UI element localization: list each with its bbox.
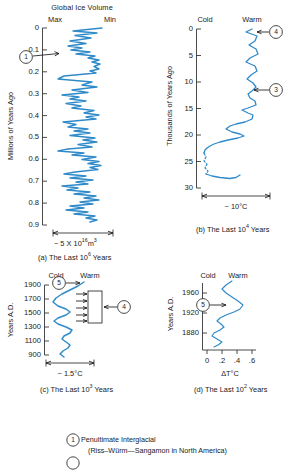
svg-text:(d) The Last 102 Years: (d) The Last 102 Years — [194, 383, 268, 394]
panel-c-scalebar-text: ~ 1.5°C — [58, 369, 84, 378]
svg-text:(c) The Last 103 Years: (c) The Last 103 Years — [40, 383, 113, 394]
callout-1-panel-a: 1 — [20, 51, 59, 64]
panel-d-xlabel: ΔT°C — [221, 369, 239, 378]
panel-c-ytick-labels: 1900 1700 1500 1300 1100 900 — [24, 280, 41, 359]
svg-text:0.3: 0.3 — [28, 89, 39, 98]
panel-b-scalebar-text: ~ 10°C — [225, 202, 249, 211]
svg-text:1920: 1920 — [182, 308, 199, 317]
panel-b: Cold Warm 0 5 10 15 20 25 30 Thousands o… — [160, 6, 293, 221]
panel-b-curve — [204, 29, 258, 153]
callout-3-panel-b: 3 — [254, 84, 282, 97]
svg-text:15: 15 — [185, 104, 193, 113]
svg-text:0.4: 0.4 — [28, 111, 39, 120]
svg-text:(a) The Last 106 Years: (a) The Last 106 Years — [38, 251, 112, 262]
callout-4-panel-b: 4 — [257, 26, 282, 39]
svg-text:1960: 1960 — [182, 288, 199, 297]
panel-b-scalebar: ~ 10°C — [202, 193, 270, 211]
svg-text:0: 0 — [189, 24, 193, 33]
panel-a-caption: (a) The Last 106 Years — [0, 250, 160, 266]
callout-4c-number: 4 — [122, 303, 126, 310]
panel-c-caption: (c) The Last 103 Years — [0, 382, 160, 398]
panel-a-curve — [58, 28, 102, 222]
svg-text:0: 0 — [35, 23, 39, 32]
panel-b-curve-lower — [206, 174, 240, 179]
panel-d-ytick-labels: 1960 1920 1880 — [182, 288, 199, 337]
panel-c-curve — [53, 282, 84, 357]
svg-text:1700: 1700 — [24, 294, 41, 303]
panel-d-cold-label: Cold — [200, 271, 215, 280]
legend-item-1: 1 Penultimate Interglacial (Riss–Würm—Sa… — [67, 434, 227, 455]
panel-c: Cold Warm 1900 1700 1500 1300 1100 900 Y… — [0, 268, 160, 384]
svg-text:(b) The Last 104 Years: (b) The Last 104 Years — [196, 223, 270, 234]
panel-a-scalebar: ~ 5 X 1016m3 — [53, 230, 113, 248]
panel-b-ytick-labels: 0 5 10 15 20 25 30 — [185, 24, 193, 192]
callout-4-box — [88, 291, 102, 323]
svg-text:900: 900 — [28, 350, 41, 359]
svg-text:1900: 1900 — [24, 280, 41, 289]
panel-c-warm-label: Warm — [80, 271, 99, 280]
svg-text:25: 25 — [185, 157, 193, 166]
svg-text:0.7: 0.7 — [28, 176, 39, 185]
panel-d-caption: (d) The Last 102 Years — [160, 382, 293, 398]
panel-d-curve — [212, 281, 243, 347]
panel-b-warm-label: Warm — [242, 15, 261, 24]
panel-b-curve-dashed — [204, 153, 208, 174]
svg-text:0.5: 0.5 — [28, 132, 39, 141]
panel-a-title: Global Ice Volume — [51, 3, 113, 12]
callout-3-number: 3 — [274, 86, 278, 93]
legend-1-line1: Penultimate Interglacial — [81, 435, 156, 444]
svg-text:0.8: 0.8 — [28, 198, 39, 207]
panel-a: Global Ice Volume Max Min 0 0.1 0.2 0.3 … — [0, 0, 160, 252]
svg-text:1880: 1880 — [182, 328, 199, 337]
legend-1-line2: (Riss–Würm—Sangamon in North America) — [88, 446, 227, 455]
panel-a-ylabel: Millions of Years Ago — [6, 92, 15, 160]
callout-4-number: 4 — [274, 28, 278, 35]
panel-d: Cold Warm 1960 1920 1880 Years A.D. 0 .2… — [160, 268, 293, 384]
panel-d-warm-label: Warm — [228, 271, 247, 280]
svg-text:5: 5 — [189, 51, 193, 60]
svg-text:30: 30 — [185, 183, 193, 192]
panel-a-min-label: Min — [104, 15, 116, 24]
panel-d-ylabel: Years A.D. — [166, 297, 175, 332]
svg-text:1100: 1100 — [25, 336, 41, 345]
panel-c-ylabel: Years A.D. — [6, 303, 15, 338]
panel-b-ylabel: Thousands of Years Ago — [165, 66, 174, 146]
svg-text:.6: .6 — [249, 356, 255, 365]
svg-text:1500: 1500 — [24, 308, 41, 317]
svg-text:0: 0 — [205, 356, 209, 365]
callout-5-panel-d: 5 — [197, 299, 226, 312]
svg-text:20: 20 — [185, 130, 193, 139]
figure-legend: 1 Penultimate Interglacial (Riss–Würm—Sa… — [0, 432, 293, 472]
svg-text:.4: .4 — [234, 356, 240, 365]
panel-c-scalebar: ~ 1.5°C — [46, 360, 94, 378]
panel-d-xtick-labels: 0 .2 .4 .6 — [205, 356, 255, 365]
svg-text:0.2: 0.2 — [28, 67, 39, 76]
svg-text:0.9: 0.9 — [28, 220, 39, 229]
legend-1-number: 1 — [71, 436, 75, 443]
callout-1-number: 1 — [24, 53, 28, 60]
legend-2-circle-partial — [67, 457, 79, 469]
panel-a-scalebar-text: ~ 5 X 1016m3 — [54, 237, 97, 248]
svg-text:1300: 1300 — [24, 322, 41, 331]
svg-text:0.6: 0.6 — [28, 154, 39, 163]
svg-text:.2: .2 — [219, 356, 225, 365]
panel-b-cold-label: Cold — [197, 15, 212, 24]
panel-a-max-label: Max — [48, 15, 62, 24]
callout-5d-number: 5 — [201, 301, 205, 308]
svg-text:10: 10 — [185, 77, 193, 86]
callout-4-panel-c: 4 — [76, 291, 130, 323]
callout-5-number: 5 — [57, 279, 61, 286]
panel-b-caption: (b) The Last 104 Years — [160, 222, 293, 238]
